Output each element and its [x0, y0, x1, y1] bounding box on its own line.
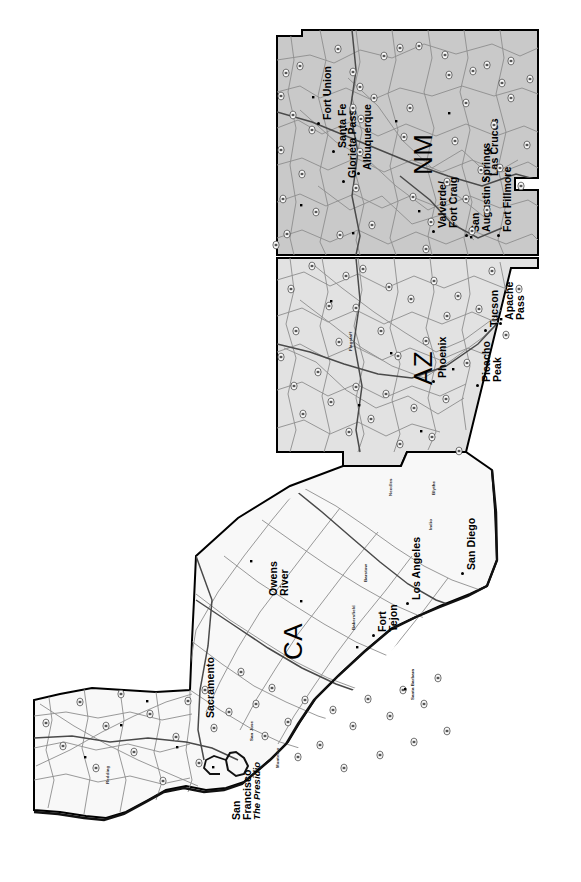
route-shield: [202, 686, 208, 694]
route-shield: [350, 722, 356, 730]
route-shield: [386, 283, 392, 291]
map-canvas: NMAZCAFort UnionSanta FeGlorieta PassAlb…: [0, 0, 581, 882]
route-shield: [476, 305, 482, 313]
route-shield: [328, 398, 334, 406]
route-shield: [343, 272, 349, 280]
route-shield: [288, 285, 294, 293]
town-marker: [352, 232, 354, 234]
route-shield: [410, 193, 416, 201]
route-shield: [365, 695, 371, 703]
route-shield: [411, 738, 417, 746]
route-shield: [309, 126, 315, 134]
town-marker: [345, 128, 347, 130]
route-shield: [302, 696, 308, 704]
route-shield: [423, 245, 429, 253]
route-shield: [446, 71, 452, 79]
route-shield: [491, 121, 497, 129]
route-shield: [315, 368, 321, 376]
town-marker: [300, 204, 302, 206]
route-shield: [77, 698, 83, 706]
route-shield: [499, 79, 505, 87]
town-marker: [418, 210, 420, 212]
route-shield: [429, 433, 435, 441]
route-shield: [160, 777, 166, 785]
route-shield: [299, 170, 305, 178]
route-shield: [411, 404, 417, 412]
route-shield: [469, 227, 475, 235]
route-shield: [350, 68, 356, 76]
route-shield: [147, 710, 153, 718]
route-shield: [353, 304, 359, 312]
route-shield: [278, 92, 284, 100]
route-shield: [300, 410, 306, 418]
route-shield: [395, 352, 401, 360]
route-shield: [455, 292, 461, 300]
route-shield: [285, 718, 291, 726]
route-shield: [330, 706, 336, 714]
route-shield: [444, 178, 450, 186]
route-shields: [0, 0, 581, 882]
town-marker: [487, 148, 489, 150]
town-marker: [250, 560, 252, 562]
town-marker: [330, 300, 332, 302]
route-shield: [353, 383, 359, 391]
route-shield: [423, 337, 429, 345]
route-shield: [381, 52, 387, 60]
town-marker: [470, 236, 472, 238]
route-shield: [350, 104, 356, 112]
route-shield: [444, 312, 450, 320]
route-shield: [421, 700, 427, 708]
route-shield: [524, 141, 530, 149]
route-shield: [290, 111, 296, 119]
route-shield: [238, 668, 244, 676]
route-shield: [226, 708, 232, 716]
route-shield: [478, 166, 484, 174]
route-shield: [291, 382, 297, 390]
route-shield: [43, 719, 49, 727]
route-shield: [269, 684, 275, 692]
route-shield: [358, 115, 364, 123]
route-shield: [518, 182, 524, 190]
route-shield: [497, 164, 503, 172]
route-shield: [295, 753, 301, 761]
route-shield: [357, 148, 363, 156]
route-shield: [431, 277, 437, 285]
route-shield: [118, 690, 124, 698]
route-shield: [407, 104, 413, 112]
town-marker: [356, 646, 358, 648]
route-shield: [463, 99, 469, 107]
route-shield: [341, 764, 347, 772]
route-shield: [484, 61, 490, 69]
route-shield: [337, 231, 343, 239]
route-shield: [103, 722, 109, 730]
route-shield: [262, 732, 268, 740]
route-shield: [360, 265, 366, 273]
route-shield: [185, 697, 191, 705]
route-shield: [377, 751, 383, 759]
route-shield: [280, 195, 286, 203]
route-shield: [452, 137, 458, 145]
route-shield: [278, 146, 284, 154]
route-shield: [369, 221, 375, 229]
town-marker: [312, 96, 314, 98]
town-marker: [146, 700, 148, 702]
route-shield: [456, 447, 462, 455]
route-shield: [297, 62, 303, 70]
route-shield: [489, 267, 495, 275]
route-shield: [503, 331, 509, 339]
route-shield: [273, 241, 279, 249]
town-marker: [120, 724, 122, 726]
route-shield: [293, 327, 299, 335]
route-shield: [335, 45, 341, 53]
route-shield: [484, 206, 490, 214]
route-shield: [211, 724, 217, 732]
town-marker: [176, 746, 178, 748]
route-shield: [357, 83, 363, 91]
route-shield: [527, 75, 533, 83]
route-shield: [371, 94, 377, 102]
route-shield: [516, 285, 522, 293]
town-marker: [452, 368, 454, 370]
route-shield: [397, 44, 403, 52]
route-shield: [435, 674, 441, 682]
route-shield: [368, 415, 374, 423]
